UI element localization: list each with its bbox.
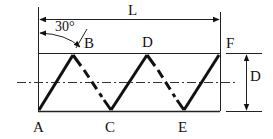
winding-stub-e	[177, 100, 184, 110]
angle-label: 30°	[55, 19, 75, 34]
winding-stub-c	[104, 100, 111, 110]
winding-stub-d	[147, 55, 155, 66]
point-label-f: F	[226, 35, 234, 51]
winding-hidden-b-c	[84, 70, 102, 97]
point-label-d: D	[142, 34, 153, 50]
point-label-c: C	[105, 119, 115, 135]
point-label-e: E	[178, 119, 187, 135]
diameter-label: D	[250, 68, 261, 84]
winding-stub-b	[73, 55, 81, 66]
point-label-a: A	[33, 119, 44, 135]
winding-segment-a-b	[39, 55, 73, 110]
angle-arc	[40, 33, 80, 47]
point-label-b: B	[84, 35, 94, 51]
length-label: L	[128, 2, 137, 18]
winding-diagram: 30° L D A B C D E F	[0, 0, 273, 139]
winding-hidden-d-e	[158, 70, 175, 97]
